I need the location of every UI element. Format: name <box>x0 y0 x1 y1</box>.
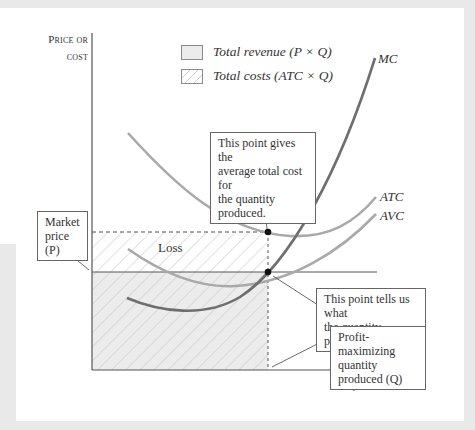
loss-label: Loss <box>158 240 183 256</box>
legend-total-costs: Total costs (ATC × Q) <box>181 67 333 85</box>
atc-point-callout: This point gives the average total cost … <box>210 132 316 224</box>
callout-line: the quantity produced. <box>218 192 308 220</box>
mc-label: MC <box>378 51 398 67</box>
callout-line: price (P) <box>45 229 80 257</box>
callout-line: Profit-maximizing <box>338 330 418 358</box>
callout-line: This point gives the <box>218 136 308 164</box>
mc-price-point <box>265 269 272 276</box>
callout-line: Market <box>45 215 80 229</box>
atc-label: ATC <box>380 189 403 205</box>
quantity-callout: Profit-maximizing quantity produced (Q) <box>330 326 426 390</box>
callout-line: average total cost for <box>218 164 308 192</box>
legend-label-revenue: Total revenue (P × Q) <box>213 44 332 60</box>
y-axis-label: Price or cost <box>48 31 88 65</box>
mc-callout-leader <box>273 276 318 305</box>
legend-total-revenue: Total revenue (P × Q) <box>181 43 332 61</box>
legend-label-costs: Total costs (ATC × Q) <box>213 68 333 84</box>
callout-line: quantity produced (Q) <box>338 358 418 386</box>
atc-point <box>265 229 272 236</box>
callout-line: This point tells us what <box>324 292 418 320</box>
market-price-callout: Market price (P) <box>37 211 88 261</box>
y-axis-label-line1: Price or <box>48 31 88 48</box>
avc-label: AVC <box>380 208 404 224</box>
legend-swatch-costs <box>181 69 203 84</box>
y-axis-label-line2: cost <box>48 48 88 65</box>
legend-swatch-revenue <box>181 45 203 60</box>
